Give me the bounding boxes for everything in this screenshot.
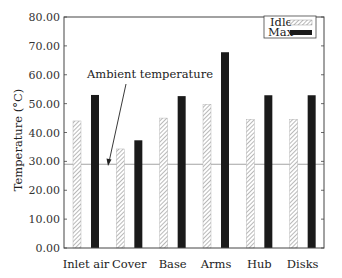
bar-idle — [160, 118, 168, 248]
bar-max — [221, 52, 229, 248]
x-category-label: Disks — [287, 257, 319, 271]
y-tick-label: 10.00 — [29, 213, 61, 226]
annotation-text: Ambient temperature — [86, 67, 213, 81]
bar-idle — [116, 149, 124, 248]
y-tick-label: 20.00 — [29, 184, 61, 197]
y-tick-label: 40.00 — [29, 127, 61, 140]
bar-idle — [246, 119, 254, 248]
plot-frame — [64, 17, 324, 248]
bar-max — [91, 95, 99, 248]
arrow-head-icon — [107, 159, 112, 167]
y-tick-label: 80.00 — [29, 11, 61, 24]
bar-max — [264, 95, 272, 248]
legend: Idle Max — [264, 15, 316, 39]
y-tick-label: 30.00 — [29, 155, 61, 168]
bar-max — [134, 140, 142, 248]
y-tick-label: 60.00 — [29, 69, 61, 82]
bar-max — [308, 95, 316, 248]
y-tick-label: 0.00 — [36, 242, 61, 255]
x-category-label: Arms — [200, 257, 232, 271]
y-tick-label: 50.00 — [29, 98, 61, 111]
ambient-annotation: Ambient temperature — [86, 67, 213, 166]
y-tick-label: 70.00 — [29, 40, 61, 53]
x-category-label: Cover — [112, 257, 147, 271]
bar-idle — [203, 104, 211, 248]
bar-chart: 0.0010.0020.0030.0040.0050.0060.0070.008… — [0, 0, 342, 278]
legend-max-swatch — [290, 30, 312, 35]
bar-idle — [73, 121, 81, 248]
bars — [73, 52, 316, 248]
x-category-label: Inlet air — [63, 257, 110, 271]
legend-max-label: Max — [268, 25, 294, 39]
x-category-label: Hub — [247, 257, 272, 271]
y-axis-label: Temperature (°C) — [11, 89, 25, 192]
bar-max — [178, 96, 186, 248]
x-category-label: Base — [159, 257, 187, 271]
bar-idle — [290, 119, 298, 248]
x-axis-labels: Inlet airCoverBaseArmsHubDisks — [63, 257, 319, 271]
legend-idle-swatch — [290, 20, 312, 25]
